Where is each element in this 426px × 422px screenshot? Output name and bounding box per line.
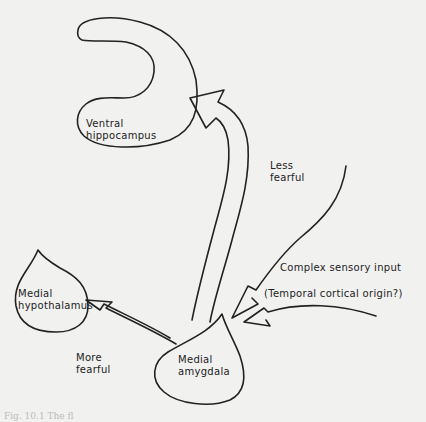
- more-fearful-label-line2: fearful: [76, 364, 111, 376]
- ventral-hippocampus-label-line1: Ventral: [86, 118, 157, 130]
- medial-hypothalamus-label-line1: Medial: [18, 288, 93, 300]
- more-fearful-label: More fearful: [76, 352, 111, 376]
- medial-amygdala-label: Medial amygdala: [178, 354, 230, 378]
- less-fearful-label-line2: fearful: [270, 172, 305, 184]
- less-fearful-label-line1: Less: [270, 160, 305, 172]
- less-fearful-arrow: [190, 90, 248, 322]
- more-fearful-label-line1: More: [76, 352, 111, 364]
- figure-caption: Fig. 10.1 The fl: [4, 411, 74, 421]
- sensory-input-arrow-lower: [244, 306, 376, 326]
- medial-hypothalamus-label: Medial hypothalamus: [18, 288, 93, 312]
- ventral-hippocampus-label-line2: hippocampus: [86, 130, 157, 142]
- medial-amygdala-label-line2: amygdala: [178, 366, 230, 378]
- medial-hypothalamus-label-line2: hypothalamus: [18, 300, 93, 312]
- more-fearful-arrow: [86, 300, 176, 344]
- sensory-input-label: Complex sensory input: [280, 262, 401, 274]
- medial-amygdala-label-line1: Medial: [178, 354, 230, 366]
- less-fearful-label: Less fearful: [270, 160, 305, 184]
- sensory-input-origin-label: (Temporal cortical origin?): [264, 288, 403, 300]
- diagram-canvas: Ventral hippocampus Less fearful Medial …: [0, 0, 426, 422]
- ventral-hippocampus-label: Ventral hippocampus: [86, 118, 157, 142]
